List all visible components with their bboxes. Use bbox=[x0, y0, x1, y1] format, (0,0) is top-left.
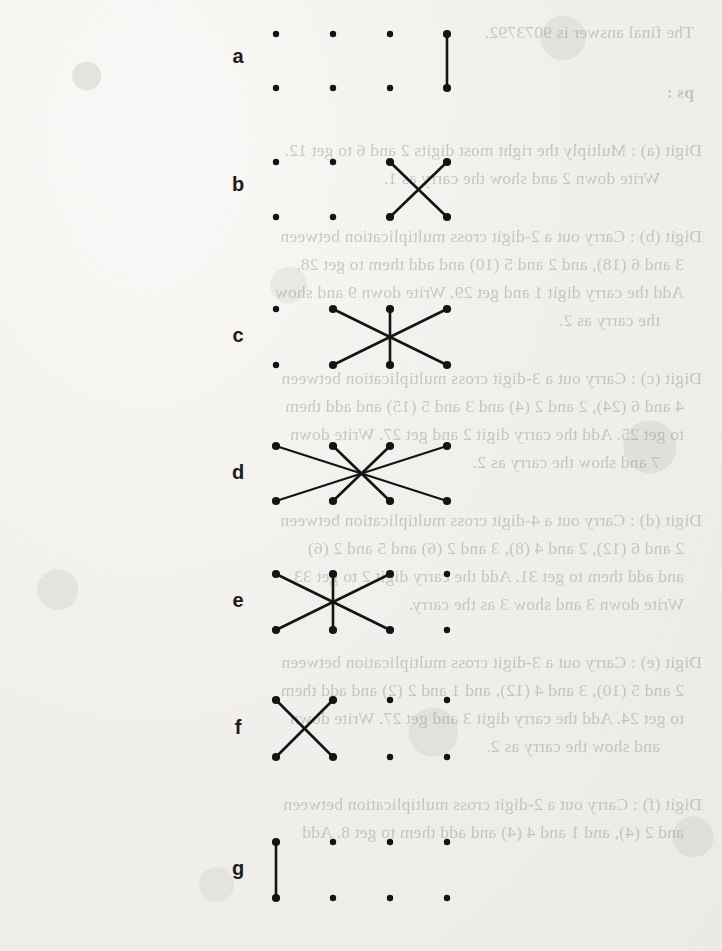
row-label-g: g bbox=[226, 857, 250, 880]
grid-dot bbox=[387, 895, 393, 901]
row-label-b: b bbox=[226, 173, 250, 196]
grid-dot bbox=[444, 754, 450, 760]
row-label-d: d bbox=[226, 461, 250, 484]
row-label-e: e bbox=[226, 589, 250, 612]
grid-dot bbox=[443, 497, 451, 505]
grid-dot bbox=[387, 85, 393, 91]
diagram-row-d bbox=[272, 442, 451, 505]
grid-dot bbox=[272, 838, 280, 846]
grid-dot bbox=[443, 442, 451, 450]
grid-dot bbox=[329, 305, 337, 313]
row-label-c: c bbox=[226, 324, 250, 347]
dot-grid-diagram-area: abcdefg bbox=[0, 0, 722, 951]
grid-dot bbox=[443, 30, 451, 38]
grid-dot bbox=[386, 213, 394, 221]
grid-dot bbox=[330, 895, 336, 901]
grid-dot bbox=[273, 85, 279, 91]
grid-dot bbox=[387, 31, 393, 37]
diagram-row-c bbox=[273, 305, 451, 369]
grid-dot bbox=[386, 570, 394, 578]
grid-dot bbox=[273, 31, 279, 37]
diagram-row-f bbox=[272, 696, 450, 761]
grid-dot bbox=[443, 213, 451, 221]
grid-dot bbox=[272, 497, 280, 505]
grid-dot bbox=[386, 361, 394, 369]
grid-dot bbox=[387, 839, 393, 845]
grid-dot bbox=[444, 839, 450, 845]
grid-dot bbox=[386, 497, 394, 505]
grid-dot bbox=[329, 753, 337, 761]
grid-dot bbox=[272, 442, 280, 450]
grid-dot bbox=[387, 754, 393, 760]
grid-dot bbox=[443, 158, 451, 166]
grid-dot bbox=[330, 85, 336, 91]
grid-dot bbox=[272, 570, 280, 578]
grid-dot bbox=[444, 895, 450, 901]
grid-dot bbox=[329, 497, 337, 505]
row-label-f: f bbox=[226, 716, 250, 739]
grid-dot bbox=[443, 305, 451, 313]
grid-dot bbox=[273, 362, 279, 368]
grid-dot bbox=[330, 31, 336, 37]
diagram-row-b bbox=[273, 158, 451, 221]
grid-dot bbox=[386, 442, 394, 450]
grid-dot bbox=[330, 839, 336, 845]
grid-dot bbox=[329, 696, 337, 704]
grid-dot bbox=[387, 697, 393, 703]
grid-dot bbox=[386, 158, 394, 166]
grid-dot bbox=[273, 214, 279, 220]
row-label-a: a bbox=[226, 45, 250, 68]
grid-dot bbox=[330, 159, 336, 165]
grid-dot bbox=[329, 570, 337, 578]
dot-and-line-diagrams bbox=[0, 0, 722, 951]
diagram-row-a bbox=[273, 30, 451, 92]
grid-dot bbox=[444, 627, 450, 633]
grid-dot bbox=[329, 442, 337, 450]
grid-dot bbox=[386, 626, 394, 634]
grid-dot bbox=[444, 697, 450, 703]
grid-dot bbox=[330, 214, 336, 220]
diagram-row-g bbox=[272, 838, 450, 902]
grid-dot bbox=[272, 626, 280, 634]
grid-dot bbox=[272, 753, 280, 761]
grid-dot bbox=[329, 626, 337, 634]
grid-dot bbox=[443, 361, 451, 369]
grid-dot bbox=[273, 306, 279, 312]
grid-dot bbox=[272, 894, 280, 902]
grid-dot bbox=[329, 361, 337, 369]
diagram-row-e bbox=[272, 570, 450, 634]
grid-dot bbox=[444, 571, 450, 577]
scanned-page: The final answer is 9073792.ps :Digit (a… bbox=[0, 0, 722, 951]
grid-dot bbox=[273, 159, 279, 165]
grid-dot bbox=[443, 84, 451, 92]
grid-dot bbox=[272, 696, 280, 704]
grid-dot bbox=[386, 305, 394, 313]
